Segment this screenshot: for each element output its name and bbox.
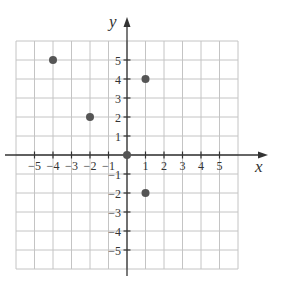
x-tick-label: 4 — [198, 159, 204, 173]
y-tick-label: 3 — [115, 92, 121, 106]
y-tick-label: −4 — [108, 225, 121, 239]
x-tick-label: 1 — [143, 159, 149, 173]
x-axis-label: x — [254, 157, 263, 176]
y-axis-arrow-icon — [124, 17, 131, 27]
axes — [5, 17, 268, 276]
coordinate-plane: −5−4−3−2−112345−5−4−3−2−112345 x y — [0, 0, 281, 287]
y-tick-label: 1 — [115, 130, 121, 144]
x-tick-label: −4 — [47, 159, 60, 173]
data-point — [86, 113, 94, 121]
y-tick-label: 2 — [115, 111, 121, 125]
y-tick-label: 4 — [115, 73, 121, 87]
data-point — [142, 189, 150, 197]
x-tick-label: −5 — [28, 159, 41, 173]
y-axis-label: y — [107, 12, 117, 31]
x-tick-label: 2 — [161, 159, 167, 173]
x-tick-label: 5 — [217, 159, 223, 173]
x-tick-label: −2 — [84, 159, 97, 173]
y-tick-label: −3 — [108, 206, 121, 220]
y-tick-label: −5 — [108, 244, 121, 258]
y-tick-label: −1 — [108, 168, 121, 182]
x-tick-label: −3 — [65, 159, 78, 173]
x-tick-label: 3 — [180, 159, 186, 173]
data-point — [49, 56, 57, 64]
data-points — [49, 56, 150, 197]
y-tick-label: −2 — [108, 187, 121, 201]
data-point — [123, 151, 131, 159]
y-tick-label: 5 — [115, 54, 121, 68]
data-point — [142, 75, 150, 83]
